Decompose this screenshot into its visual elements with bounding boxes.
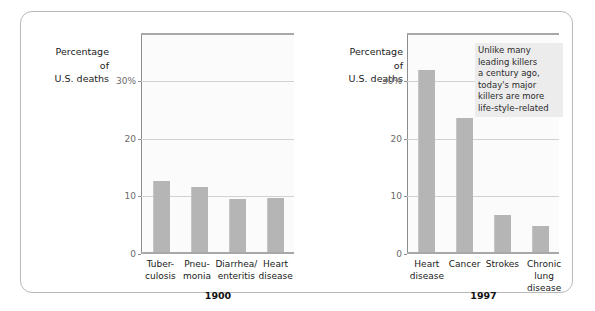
x-axis-label: Heart disease — [408, 258, 446, 294]
bar-slot — [408, 35, 446, 252]
bar-slot — [256, 35, 294, 252]
bar-series-1900 — [142, 35, 294, 252]
bar-slot — [142, 35, 180, 252]
x-axis-label: Heart disease — [257, 258, 294, 282]
bar-slot — [180, 35, 218, 252]
y-axis-caption-line-2: of — [31, 59, 109, 73]
y-tick-mark-0 — [138, 254, 141, 255]
chart-panel-1900: Percentage of U.S. deaths 0102030% Tuber… — [21, 12, 319, 292]
y-tick-label-20: 20 — [391, 134, 402, 144]
y-tick-label-10: 10 — [391, 191, 402, 201]
annotation-callout: Unlike many leading killers a century ag… — [475, 43, 563, 117]
bar-slot — [218, 35, 256, 252]
y-tick-label-30: 30% — [382, 76, 402, 86]
x-axis-labels-1900: Tuber- culosisPneu- moniaDiarrhea/ enter… — [142, 258, 294, 282]
x-axis-line-1997 — [407, 252, 559, 254]
bar — [532, 226, 549, 253]
y-tick-mark-30 — [138, 81, 141, 82]
y-tick-mark-30 — [404, 81, 407, 82]
x-axis-label: Pneu- monia — [179, 258, 216, 282]
y-tick-label-0: 0 — [130, 249, 136, 259]
y-tick-label-20: 20 — [125, 134, 136, 144]
y-axis-caption-line-3: U.S. deaths — [31, 72, 109, 86]
x-axis-label: Diarrhea/ enteritis — [215, 258, 257, 282]
y-axis-caption-1900: Percentage of U.S. deaths — [31, 45, 109, 86]
y-tick-mark-20 — [138, 139, 141, 140]
x-axis-label: Strokes — [484, 258, 522, 294]
plot-area-1997: 0102030% Unlike many leading killers a c… — [407, 33, 559, 254]
y-axis-caption-line-1: Percentage — [31, 45, 109, 59]
x-axis-label: Tuber- culosis — [142, 258, 179, 282]
bar — [494, 215, 511, 252]
panel-title-1997: 1997 — [408, 290, 559, 301]
y-tick-mark-0 — [404, 254, 407, 255]
bar — [456, 118, 473, 252]
bar — [229, 199, 246, 252]
y-tick-mark-10 — [404, 196, 407, 197]
x-axis-label: Chronic lung disease — [525, 258, 563, 294]
bar — [418, 70, 435, 252]
y-tick-mark-10 — [138, 196, 141, 197]
x-axis-label: Cancer — [446, 258, 484, 294]
y-axis-caption-line-2: of — [325, 59, 403, 73]
panel-title-1900: 1900 — [142, 290, 294, 301]
y-tick-label-10: 10 — [125, 191, 136, 201]
x-axis-line-1900 — [141, 252, 294, 254]
y-tick-label-30: 30% — [116, 76, 136, 86]
chart-panel-1997: Percentage of U.S. deaths 0102030% Unlik… — [319, 12, 574, 292]
y-tick-label-0: 0 — [396, 249, 402, 259]
bar — [267, 198, 284, 252]
bar — [153, 181, 170, 252]
figure-frame: Percentage of U.S. deaths 0102030% Tuber… — [20, 11, 573, 293]
y-axis-caption-line-1: Percentage — [325, 45, 403, 59]
bar — [191, 187, 208, 252]
x-axis-labels-1997: Heart diseaseCancerStrokesChronic lung d… — [408, 258, 559, 294]
plot-area-1900: 0102030% — [141, 33, 294, 254]
y-tick-mark-20 — [404, 139, 407, 140]
